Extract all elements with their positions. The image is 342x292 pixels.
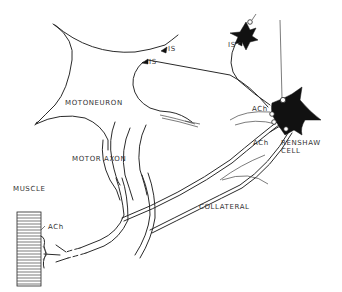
- label-motor-axon: MOTOR AXON: [72, 155, 126, 163]
- label-muscle: MUSCLE: [13, 185, 45, 193]
- inhibitory-synapses: [142, 41, 242, 64]
- label-ach-lower: ACh: [253, 139, 269, 147]
- label-motoneuron: MOTONEURON: [65, 99, 123, 107]
- renshaw-cell-soma: [270, 20, 321, 135]
- renshaw-circuit-diagram: MOTONEURON MOTOR AXON MUSCLE ACh COLLATE…: [0, 0, 342, 292]
- label-is-2: IS: [149, 58, 157, 66]
- muscle-block: [17, 212, 47, 286]
- label-is-3: IS: [228, 41, 236, 49]
- collateral-branches: [122, 112, 292, 233]
- motor-axon-bundle: [44, 122, 155, 262]
- inhibitory-interneuron-soma: [230, 14, 270, 105]
- label-renshaw: RENSHAW: [281, 139, 321, 147]
- is-synapse-1: [161, 47, 167, 53]
- label-collateral: COLLATERAL: [199, 203, 250, 211]
- label-renshaw-cell: CELL: [281, 147, 301, 155]
- endplate: [41, 236, 46, 268]
- is-synapse-2: [142, 59, 148, 64]
- label-is-1: IS: [168, 45, 176, 53]
- label-ach-upper: ACh: [252, 105, 268, 113]
- label-ach-endplate: ACh: [48, 223, 64, 231]
